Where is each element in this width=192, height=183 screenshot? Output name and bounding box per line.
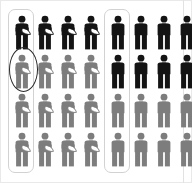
person-icon [106,13,129,52]
person-icon [106,91,129,130]
person-carrying-baby-icon [10,91,33,130]
person-icon [129,130,152,169]
person-icon [152,52,175,91]
person-icon [152,130,175,169]
person-icon [152,91,175,130]
pictogram-group-left [4,0,96,183]
person-icon [175,13,192,52]
person-icon [152,13,175,52]
pictogram-group-right [98,0,190,183]
person-icon [129,91,152,130]
person-icon [106,52,129,91]
person-icon [129,52,152,91]
person-carrying-baby-icon [56,13,79,52]
person-icon [175,52,192,91]
person-carrying-baby-icon [10,130,33,169]
person-carrying-baby-icon [33,130,56,169]
person-carrying-baby-icon [33,91,56,130]
person-icon [175,91,192,130]
pictogram-canvas [0,0,192,183]
person-carrying-baby-icon [33,13,56,52]
circled-figure-annotation[interactable] [9,47,38,92]
pictogram-grid-right [106,13,192,169]
person-carrying-baby-icon [56,91,79,130]
person-icon [129,13,152,52]
person-icon [106,130,129,169]
person-carrying-baby-icon [56,130,79,169]
person-icon [175,130,192,169]
person-carrying-baby-icon [56,52,79,91]
